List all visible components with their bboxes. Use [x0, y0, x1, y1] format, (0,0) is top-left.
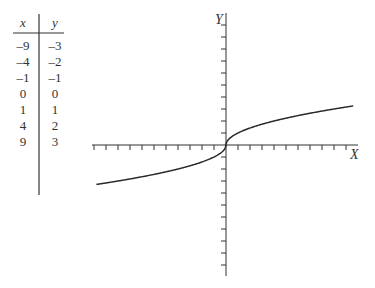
table-cell-x: –9 — [16, 38, 30, 53]
table-cell-y: –2 — [48, 54, 62, 69]
table-cell-y: 3 — [52, 134, 59, 149]
table-cell-x: –1 — [16, 70, 30, 85]
table-header-y: y — [50, 15, 58, 30]
x-axis-ticks — [94, 145, 346, 150]
x-axis-label: X — [349, 147, 359, 162]
table-cell-y: –3 — [48, 38, 62, 53]
table-cell-x: 9 — [20, 134, 27, 149]
table-cell-x: 1 — [20, 102, 27, 117]
table-cell-y: 0 — [52, 86, 59, 101]
value-table: x y –9–3–4–2–1–100114293 — [13, 14, 64, 195]
table-cell-y: 2 — [52, 118, 59, 133]
table-cell-x: –4 — [16, 54, 31, 69]
figure: x y –9–3–4–2–1–100114293 X Y — [0, 0, 375, 288]
table-header-x: x — [19, 15, 26, 30]
table-cell-x: 4 — [20, 118, 27, 133]
table-cell-y: 1 — [52, 102, 59, 117]
table-cell-y: –1 — [48, 70, 62, 85]
table-cell-x: 0 — [20, 86, 27, 101]
